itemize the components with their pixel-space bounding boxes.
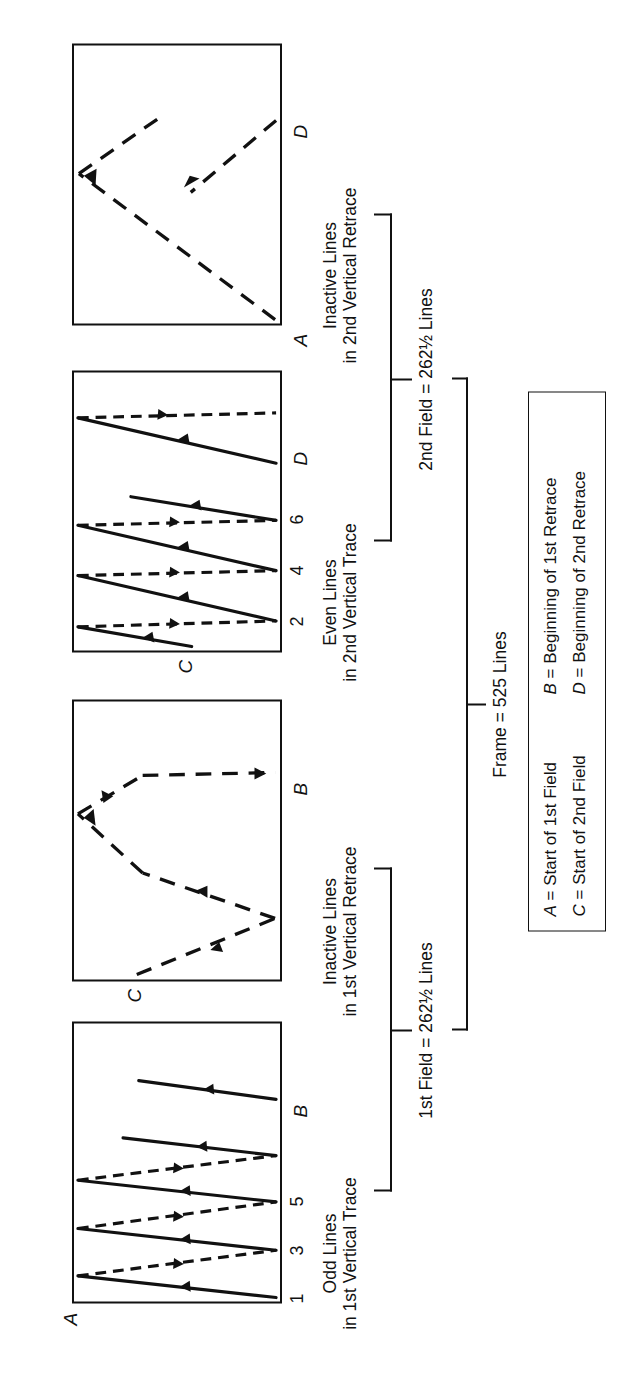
panel3-tick-4: 4 bbox=[287, 565, 308, 575]
legend-eq-B: = bbox=[541, 668, 560, 678]
legend-symbol-C: C bbox=[570, 904, 589, 916]
panel2-caption-line2: in 1st Vertical Retrace bbox=[340, 846, 360, 1016]
bracket-field1-stem bbox=[390, 1029, 412, 1031]
panel1-caption-line1: Odd Lines bbox=[320, 1177, 340, 1330]
panel1-tick-1: 1 bbox=[287, 1293, 308, 1303]
legend-box: A = Start of 1st Field C = Start of 2nd … bbox=[528, 391, 606, 931]
legend-symbol-B: B bbox=[541, 683, 560, 694]
legend-text-B: Beginning of 1st Retrace bbox=[541, 477, 560, 663]
panel3-label-C: C bbox=[175, 659, 197, 673]
bracket-field1-label: 1st Field = 262½ Lines bbox=[416, 942, 437, 1119]
legend-text-C: Start of 2nd Field bbox=[570, 755, 589, 884]
bracket-frame-label: Frame = 525 Lines bbox=[490, 631, 511, 777]
legend-text-A: Start of 1st Field bbox=[541, 761, 560, 885]
legend-symbol-D: D bbox=[570, 682, 589, 694]
inactive-2nd-retrace-trace bbox=[74, 45, 280, 323]
panel3-caption-line1: Even Lines bbox=[320, 523, 340, 682]
panel2-label-C: C bbox=[124, 988, 146, 1002]
bracket-field2-stem bbox=[390, 378, 412, 380]
panel3-caption: Even Lines in 2nd Vertical Trace bbox=[320, 523, 360, 682]
panel4-label-A: A bbox=[290, 333, 312, 346]
legend-eq-D: = bbox=[570, 667, 589, 677]
legend-eq-A: = bbox=[541, 890, 560, 900]
legend-row-C: C = Start of 2nd Field bbox=[570, 755, 590, 916]
panel4-caption-line1: Inactive Lines bbox=[320, 187, 340, 363]
panel1-label-A: A bbox=[60, 1312, 82, 1325]
panel2-caption: Inactive Lines in 1st Vertical Retrace bbox=[320, 846, 360, 1016]
panel1-tick-3: 3 bbox=[287, 1245, 308, 1255]
legend-symbol-A: A bbox=[541, 905, 560, 916]
inactive-1st-retrace-trace bbox=[74, 701, 280, 979]
panel3-tick-6: 6 bbox=[287, 514, 308, 524]
bracket-field2-span bbox=[390, 213, 392, 541]
panel3-label-D: D bbox=[290, 451, 312, 465]
odd-lines-trace bbox=[74, 1023, 280, 1301]
panel1-tick-5: 5 bbox=[287, 1196, 308, 1206]
legend-eq-C: = bbox=[570, 889, 589, 899]
panel-odd-lines bbox=[72, 1021, 282, 1303]
panel-inactive-1st-retrace bbox=[72, 699, 282, 981]
panel4-caption: Inactive Lines in 2nd Vertical Retrace bbox=[320, 187, 360, 363]
legend-text-D: Beginning of 2nd Retrace bbox=[570, 470, 589, 662]
panel1-caption-line2: in 1st Vertical Trace bbox=[340, 1177, 360, 1330]
legend-row-D: D = Beginning of 2nd Retrace bbox=[570, 470, 590, 694]
panel-even-lines bbox=[72, 370, 282, 652]
even-lines-trace bbox=[74, 372, 280, 650]
figure-canvas: A B 1 3 5 Odd Lines in 1st Vertical Trac… bbox=[0, 0, 622, 1381]
bracket-frame-stem bbox=[466, 703, 486, 705]
panel3-tick-2: 2 bbox=[287, 616, 308, 626]
panel-inactive-2nd-retrace bbox=[72, 43, 282, 325]
panel2-label-B: B bbox=[290, 782, 312, 795]
legend-row-B: B = Beginning of 1st Retrace bbox=[541, 477, 561, 694]
panel3-caption-line2: in 2nd Vertical Trace bbox=[340, 523, 360, 682]
panel1-caption: Odd Lines in 1st Vertical Trace bbox=[320, 1177, 360, 1330]
panel1-label-B: B bbox=[290, 1104, 312, 1117]
panel2-caption-line1: Inactive Lines bbox=[320, 846, 340, 1016]
legend-row-A: A = Start of 1st Field bbox=[541, 761, 561, 916]
bracket-field2-label: 2nd Field = 262½ Lines bbox=[416, 288, 437, 470]
panel4-caption-line2: in 2nd Vertical Retrace bbox=[340, 187, 360, 363]
panel4-label-D: D bbox=[290, 124, 312, 138]
